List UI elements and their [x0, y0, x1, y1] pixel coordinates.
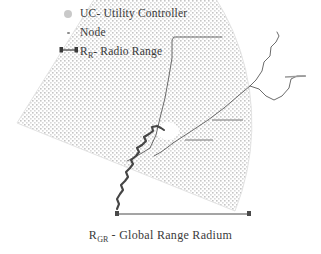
figure-caption: RGR - Global Range Radium: [0, 228, 321, 244]
legend-radio-range-prefix: R: [80, 45, 88, 57]
caption-subscript: GR: [97, 235, 108, 244]
dimension-endcap-left: [115, 211, 119, 216]
radio-range-bar-icon: [58, 42, 80, 61]
legend-label-radio-range: RR- Radio Range: [80, 42, 162, 65]
caption-prefix: R: [89, 228, 97, 242]
legend-label-node: Node: [80, 23, 106, 42]
uc-blob: [157, 122, 179, 140]
global-range-dimension: [115, 211, 251, 216]
dimension-endcap-right: [247, 211, 251, 216]
legend-label-uc: UC- Utility Controller: [80, 4, 187, 23]
caption-suffix: - Global Range Radium: [108, 228, 232, 242]
legend-item-node: Node: [58, 23, 258, 42]
leader-stub-top: [285, 76, 306, 77]
legend: UC- Utility Controller Node RR- Radio Ra…: [58, 4, 258, 61]
legend-radio-range-suffix: - Radio Range: [93, 45, 162, 57]
figure-root: UC- Utility Controller Node RR- Radio Ra…: [0, 0, 321, 254]
uc-disc-icon: [58, 4, 80, 23]
network-branch-right-zig: [250, 76, 305, 100]
legend-item-uc: UC- Utility Controller: [58, 4, 258, 23]
node-dot-icon: [58, 23, 80, 42]
legend-item-radio-range: RR- Radio Range: [58, 42, 258, 61]
